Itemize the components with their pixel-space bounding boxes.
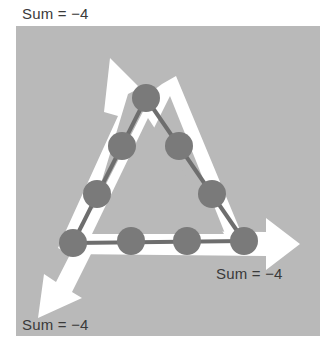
node-left-2 <box>83 180 111 208</box>
node-top <box>132 84 160 112</box>
node-bottom-left <box>59 229 87 257</box>
node-left-1 <box>108 132 136 160</box>
node-right-1 <box>165 132 193 160</box>
node-bottom-2 <box>173 227 201 255</box>
node-bottom-1 <box>117 227 145 255</box>
node-bottom-right <box>230 227 258 255</box>
triangle-diagram <box>0 0 336 354</box>
sum-label-top-left: Sum = −4 <box>22 5 89 22</box>
sum-label-bottom-right: Sum = −4 <box>216 265 283 282</box>
node-right-2 <box>198 180 226 208</box>
sum-label-bottom-left: Sum = −4 <box>22 316 89 333</box>
